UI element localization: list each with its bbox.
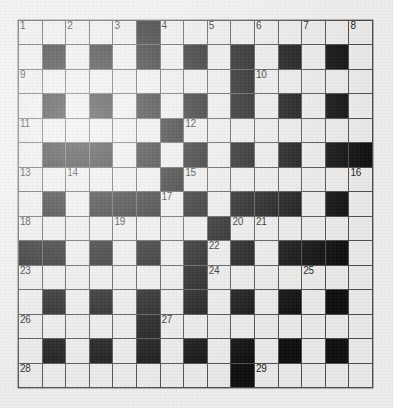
crossword-cell[interactable]	[255, 119, 278, 142]
crossword-cell[interactable]	[255, 315, 278, 338]
crossword-cell[interactable]	[43, 168, 66, 191]
crossword-cell[interactable]	[302, 70, 325, 93]
crossword-cell[interactable]	[66, 45, 89, 68]
crossword-cell[interactable]	[208, 290, 231, 313]
crossword-cell[interactable]	[326, 217, 349, 240]
crossword-cell[interactable]	[208, 315, 231, 338]
crossword-cell[interactable]: 2	[66, 21, 89, 44]
crossword-cell[interactable]	[43, 364, 66, 387]
crossword-cell[interactable]	[113, 143, 136, 166]
crossword-cell[interactable]	[302, 94, 325, 117]
crossword-cell[interactable]	[137, 168, 160, 191]
crossword-cell[interactable]	[255, 266, 278, 289]
crossword-cell[interactable]: 18	[19, 217, 42, 240]
crossword-cell[interactable]	[66, 217, 89, 240]
crossword-cell[interactable]	[279, 119, 302, 142]
crossword-cell[interactable]	[43, 266, 66, 289]
crossword-cell[interactable]: 5	[208, 21, 231, 44]
crossword-cell[interactable]	[161, 339, 184, 362]
crossword-cell[interactable]: 12	[184, 119, 207, 142]
crossword-cell[interactable]	[279, 168, 302, 191]
crossword-cell[interactable]: 29	[255, 364, 278, 387]
crossword-cell[interactable]	[208, 70, 231, 93]
crossword-cell[interactable]: 23	[19, 266, 42, 289]
crossword-cell[interactable]	[208, 94, 231, 117]
crossword-cell[interactable]	[302, 364, 325, 387]
crossword-cell[interactable]	[279, 21, 302, 44]
crossword-cell[interactable]	[137, 364, 160, 387]
crossword-cell[interactable]	[326, 315, 349, 338]
crossword-cell[interactable]	[302, 168, 325, 191]
crossword-cell[interactable]	[208, 119, 231, 142]
crossword-cell[interactable]	[255, 339, 278, 362]
crossword-cell[interactable]: 3	[113, 21, 136, 44]
crossword-cell[interactable]	[255, 45, 278, 68]
crossword-cell[interactable]	[90, 21, 113, 44]
crossword-cell[interactable]: 9	[19, 70, 42, 93]
crossword-cell[interactable]	[326, 70, 349, 93]
crossword-cell[interactable]	[231, 21, 254, 44]
crossword-cell[interactable]	[279, 70, 302, 93]
crossword-cell[interactable]: 7	[302, 21, 325, 44]
crossword-cell[interactable]: 24	[208, 266, 231, 289]
crossword-cell[interactable]	[66, 290, 89, 313]
crossword-cell[interactable]	[184, 70, 207, 93]
crossword-cell[interactable]	[349, 364, 372, 387]
crossword-cell[interactable]	[326, 364, 349, 387]
crossword-cell[interactable]	[349, 45, 372, 68]
crossword-cell[interactable]	[302, 217, 325, 240]
crossword-cell[interactable]	[184, 217, 207, 240]
crossword-cell[interactable]	[255, 168, 278, 191]
crossword-cell[interactable]	[231, 266, 254, 289]
crossword-cell[interactable]: 27	[161, 315, 184, 338]
crossword-cell[interactable]	[302, 315, 325, 338]
crossword-cell[interactable]	[326, 21, 349, 44]
crossword-cell[interactable]	[90, 217, 113, 240]
crossword-cell[interactable]: 6	[255, 21, 278, 44]
crossword-cell[interactable]	[208, 192, 231, 215]
crossword-cell[interactable]	[113, 339, 136, 362]
crossword-cell[interactable]: 8	[349, 21, 372, 44]
crossword-cell[interactable]: 15	[184, 168, 207, 191]
crossword-cell[interactable]	[279, 266, 302, 289]
crossword-cell[interactable]	[255, 94, 278, 117]
crossword-cell[interactable]	[43, 217, 66, 240]
crossword-cell[interactable]	[66, 315, 89, 338]
crossword-cell[interactable]	[19, 192, 42, 215]
crossword-cell[interactable]	[302, 192, 325, 215]
crossword-cell[interactable]: 10	[255, 70, 278, 93]
crossword-cell[interactable]	[349, 192, 372, 215]
crossword-cell[interactable]	[66, 70, 89, 93]
crossword-cell[interactable]	[161, 70, 184, 93]
crossword-cell[interactable]: 20	[231, 217, 254, 240]
crossword-cell[interactable]	[137, 217, 160, 240]
crossword-cell[interactable]	[113, 119, 136, 142]
crossword-cell[interactable]	[66, 266, 89, 289]
crossword-cell[interactable]: 26	[19, 315, 42, 338]
crossword-cell[interactable]	[161, 143, 184, 166]
crossword-cell[interactable]	[302, 119, 325, 142]
crossword-cell[interactable]	[231, 119, 254, 142]
crossword-cell[interactable]	[255, 143, 278, 166]
crossword-cell[interactable]	[255, 241, 278, 264]
crossword-cell[interactable]	[302, 45, 325, 68]
crossword-cell[interactable]	[161, 266, 184, 289]
crossword-cell[interactable]	[19, 45, 42, 68]
crossword-cell[interactable]	[161, 290, 184, 313]
crossword-cell[interactable]	[279, 315, 302, 338]
crossword-cell[interactable]	[208, 168, 231, 191]
crossword-cell[interactable]	[43, 70, 66, 93]
crossword-cell[interactable]	[66, 364, 89, 387]
crossword-cell[interactable]	[113, 45, 136, 68]
crossword-cell[interactable]	[90, 266, 113, 289]
crossword-cell[interactable]	[302, 290, 325, 313]
crossword-cell[interactable]: 14	[66, 168, 89, 191]
crossword-cell[interactable]	[90, 168, 113, 191]
crossword-cell[interactable]	[326, 168, 349, 191]
crossword-cell[interactable]: 4	[161, 21, 184, 44]
crossword-cell[interactable]	[326, 266, 349, 289]
crossword-cell[interactable]	[349, 119, 372, 142]
crossword-cell[interactable]	[349, 94, 372, 117]
crossword-cell[interactable]	[113, 315, 136, 338]
crossword-cell[interactable]	[161, 94, 184, 117]
